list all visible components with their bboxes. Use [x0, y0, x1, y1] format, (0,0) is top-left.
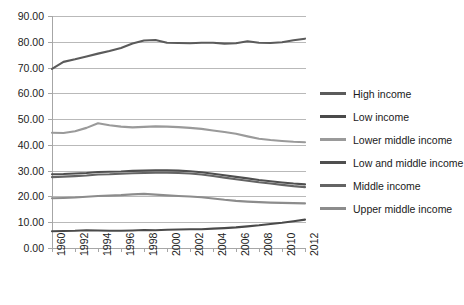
legend-color-swatch — [320, 207, 346, 210]
legend-item[interactable]: High income — [320, 82, 460, 105]
x-axis-tick-mark — [121, 248, 122, 252]
y-axis: 0.0010.0020.0030.0040.0050.0060.0070.008… — [0, 0, 48, 305]
y-axis-tick-label: 10.00 — [0, 217, 44, 227]
x-axis-tick-mark — [167, 248, 168, 252]
x-axis-tick-mark — [213, 248, 214, 252]
line-chart: 0.0010.0020.0030.0040.0050.0060.0070.008… — [0, 0, 464, 305]
x-axis-tick-mark — [190, 248, 191, 252]
legend-color-swatch — [320, 115, 346, 118]
y-axis-tick-label: 70.00 — [0, 63, 44, 73]
legend-item-label: Upper middle income — [353, 203, 452, 215]
legend-item-label: Middle income — [353, 180, 421, 192]
y-axis-tick-label: 80.00 — [0, 37, 44, 47]
x-axis-tick-mark — [98, 248, 99, 252]
legend-color-swatch — [320, 92, 346, 95]
legend-item[interactable]: Low income — [320, 105, 460, 128]
legend-color-swatch — [320, 138, 346, 141]
legend-item-label: Lower middle income — [353, 134, 452, 146]
x-axis-tick-mark — [52, 248, 53, 252]
series-line — [52, 194, 305, 204]
y-axis-tick-label: 20.00 — [0, 191, 44, 201]
y-axis-tick-label: 60.00 — [0, 88, 44, 98]
x-axis-tick-mark — [259, 248, 260, 252]
legend-color-swatch — [320, 184, 346, 187]
legend-item[interactable]: Lower middle income — [320, 128, 460, 151]
legend-color-swatch — [320, 161, 346, 164]
x-axis-tick-mark — [75, 248, 76, 252]
legend-item-label: Low income — [353, 111, 409, 123]
x-axis-tick-mark — [236, 248, 237, 252]
series-line — [52, 123, 305, 142]
x-axis-tick-mark — [305, 248, 306, 252]
x-axis-tick-label: 2012 — [309, 233, 320, 256]
legend-item[interactable]: Low and middle income — [320, 151, 460, 174]
series-line — [52, 39, 305, 69]
legend-item-label: Low and middle income — [353, 157, 463, 169]
x-axis-tick-mark — [282, 248, 283, 252]
legend-item[interactable]: Middle income — [320, 174, 460, 197]
data-series-group — [52, 16, 305, 248]
legend-item[interactable]: Upper middle income — [320, 197, 460, 220]
y-axis-tick-label: 90.00 — [0, 11, 44, 21]
y-axis-tick-label: 30.00 — [0, 166, 44, 176]
y-axis-tick-label: 50.00 — [0, 114, 44, 124]
legend-item-label: High income — [353, 88, 411, 100]
y-axis-tick-label: 0.00 — [0, 243, 44, 253]
chart-legend: High incomeLow incomeLower middle income… — [320, 82, 460, 220]
series-line — [52, 220, 305, 232]
x-axis-tick-mark — [144, 248, 145, 252]
y-axis-tick-label: 40.00 — [0, 140, 44, 150]
